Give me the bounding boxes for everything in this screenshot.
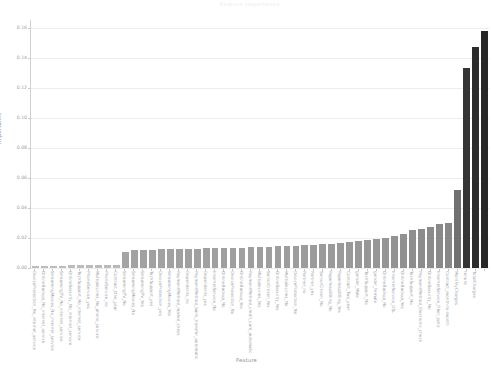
y-tick-label: 0.14 [17,55,27,60]
x-tick-label: Contract_One_year [113,271,117,311]
x-tick-label: OnlineBackup_No [220,271,224,308]
bar [472,47,479,268]
x-tick-label: tenure [463,271,467,285]
bar [481,31,488,268]
gridline [31,118,489,119]
bar [284,246,291,268]
bar [293,246,300,268]
x-tick-label: SeniorCitizen_Yes [265,271,269,308]
bar [122,252,129,268]
x-tick-label: TechSupport_yes [149,271,153,306]
bar [257,247,264,268]
bar [158,249,165,268]
x-tick-label: Contract_Two_year [346,271,350,310]
x-tick-label: DeviceProtection_No [292,271,296,314]
y-tick-label: 0.06 [17,176,27,181]
y-tick-label: 0.00 [17,266,27,271]
bar [59,266,66,268]
bar [418,229,425,268]
x-tick-label: StreamingTV_No_internet_service [59,271,63,342]
x-tick-label: PaymentMethod_credit_card_automatic [247,271,251,354]
x-tick-label: InternetService_DSL [391,271,395,313]
x-tick-label: OnlineBackup_No [382,271,386,308]
gridline [31,88,489,89]
x-tick-label: OnlineBackup_Yes [400,271,404,309]
x-tick-label: StreamingTV_Yes [140,271,144,307]
gridline [31,178,489,179]
bar [391,236,398,268]
bar [275,246,282,268]
bar [230,248,237,268]
x-tick-label: PaymentMethod_mailed_check [176,271,180,336]
bar [436,224,443,268]
bar [248,247,255,268]
gridline [31,208,489,209]
bar [131,250,138,268]
x-tick-label: Contract_month-to-month [445,271,449,326]
bar [176,249,183,268]
gridline [31,148,489,149]
y-tick-label: 0.16 [17,25,27,30]
y-tick-label: 0.12 [17,85,27,90]
x-tick-label: Partner_no [301,271,305,294]
bar [382,238,389,268]
y-tick-label: 0.08 [17,145,27,150]
x-tick-label: DeviceProtection_No [229,271,233,314]
bar [203,248,210,268]
bar [50,266,57,268]
y-tick-label: 0.02 [17,236,27,241]
x-tick-label: DeviceProtection_yes [158,271,162,316]
bar [185,249,192,268]
bar [364,240,371,268]
bar [346,242,353,268]
x-tick-label: Dependents_yes [203,271,207,306]
bar [212,248,219,268]
figure-canvas: Feature Importance 0.000.020.040.060.080… [0,0,493,376]
x-tick-label: gender_Male [355,271,359,298]
x-tick-label: Dependents_no [185,271,189,304]
bar [400,234,407,268]
x-tick-label: MultipleLines_Yes [256,271,260,307]
x-tick-label: SeniorCitizen_No [319,271,323,306]
x-tick-label: InternetService_Fiber_optic [436,271,440,328]
bar [140,250,147,268]
x-tick-label: MonthlyCharges [454,271,458,305]
bar [328,244,335,268]
x-tick-label: PaperlessBilling_Yes [337,271,341,313]
bar [86,265,93,268]
x-tick-label: gender_Female [373,271,377,303]
bar [266,247,273,268]
x-tick-label: Partner_yes [310,271,314,296]
bar [319,244,326,268]
bar [454,190,461,268]
bar [310,245,317,268]
x-tick-label: OnlineSecurity_Yes [274,271,278,311]
x-tick-label: StreamingMovies_No_internet_service [50,271,54,351]
bar [239,248,246,268]
bar [427,227,434,268]
x-tick-label: PaymentMethod_Electronic_check [418,271,422,342]
bar [95,265,102,268]
x-tick-label: InternetService_No [211,271,215,311]
x-tick-label: OnlineBackup_Yes [238,271,242,309]
x-tick-label: TotalCharges [472,271,476,298]
bar [337,243,344,268]
bar [104,265,111,268]
x-tick-label: DeviceProtection_No_internet_service [32,271,36,350]
bar [167,249,174,268]
y-tick-label: 0.04 [17,206,27,211]
plot-area [30,20,489,269]
y-axis-title: Importance [0,112,2,144]
x-tick-label: StreamingTV_No [122,271,126,306]
x-tick-label: PaperlessBilling_No [328,271,332,312]
bar [445,223,452,268]
y-axis-ticks: 0.000.020.040.060.080.100.120.140.16 [0,0,30,376]
x-tick-label: OnlineSecurity_No [427,271,431,310]
bar [355,241,362,268]
x-tick-label: PhoneService_yes [86,271,90,309]
bar [194,249,201,268]
x-tick-label: OnlineSecurity_No_internet_service [68,271,72,345]
x-tick-label: TechSupport_No [364,271,368,305]
bar [301,245,308,268]
x-tick-label: PaymentMethod_bank_transfer_automatic [194,271,198,359]
